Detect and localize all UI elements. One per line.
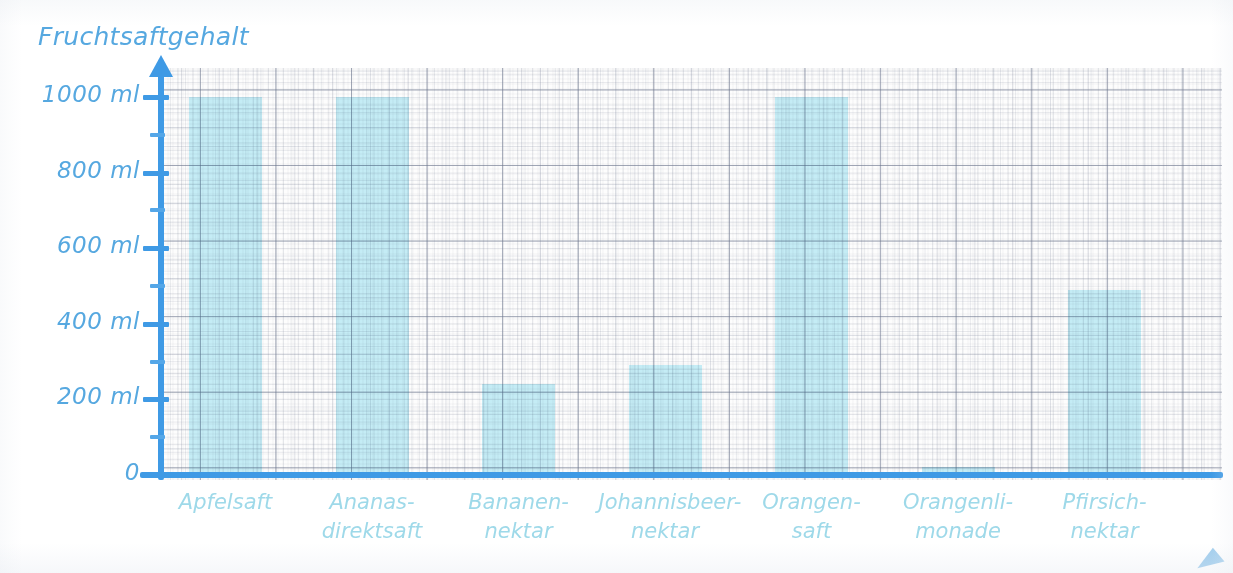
- y-axis-label: 600 ml: [57, 232, 140, 258]
- x-axis-label: Pfirsich- nektar: [1038, 488, 1171, 546]
- y-axis-tick-minor: [150, 208, 165, 212]
- x-axis-label: Bananen- nektar: [452, 488, 585, 546]
- y-axis-tick-minor: [150, 284, 165, 288]
- bar: [336, 97, 409, 475]
- y-axis-arrow-icon: [149, 55, 173, 77]
- x-axis-label: Ananas- direktsaft: [306, 488, 439, 546]
- y-axis-tick-major: [143, 397, 169, 402]
- bar: [482, 384, 555, 475]
- x-axis-label: Orangenli- monade: [892, 488, 1025, 546]
- chart-title: Fruchtsaftgehalt: [38, 22, 249, 51]
- y-axis-tick-major: [143, 171, 169, 176]
- y-axis-label: 1000 ml: [42, 81, 140, 107]
- y-axis-tick-major: [143, 473, 169, 478]
- y-axis-label: 400 ml: [57, 308, 140, 334]
- y-axis-label: 200 ml: [57, 383, 140, 409]
- x-axis-label: Orangen- saft: [745, 488, 878, 546]
- bar: [775, 97, 848, 475]
- y-axis-label: 800 ml: [57, 157, 140, 183]
- y-axis-tick-major: [143, 246, 169, 251]
- y-axis-tick-major: [143, 95, 169, 100]
- bar: [189, 97, 262, 475]
- y-axis-tick-major: [143, 322, 169, 327]
- y-axis-tick-minor: [150, 133, 165, 137]
- corner-arrow-icon: [1193, 546, 1224, 568]
- chart-container: 1000 ml800 ml600 ml400 ml200 ml0 Apfelsa…: [0, 0, 1233, 573]
- x-axis-line: [140, 472, 1223, 478]
- y-axis-label: 0: [125, 459, 140, 485]
- x-axis-label: Apfelsaft: [159, 488, 292, 517]
- y-axis-tick-minor: [150, 360, 165, 364]
- bar: [1068, 290, 1141, 475]
- y-axis-tick-minor: [150, 435, 165, 439]
- bar: [629, 365, 702, 475]
- x-axis-label: Johannisbeer- nektar: [599, 488, 732, 546]
